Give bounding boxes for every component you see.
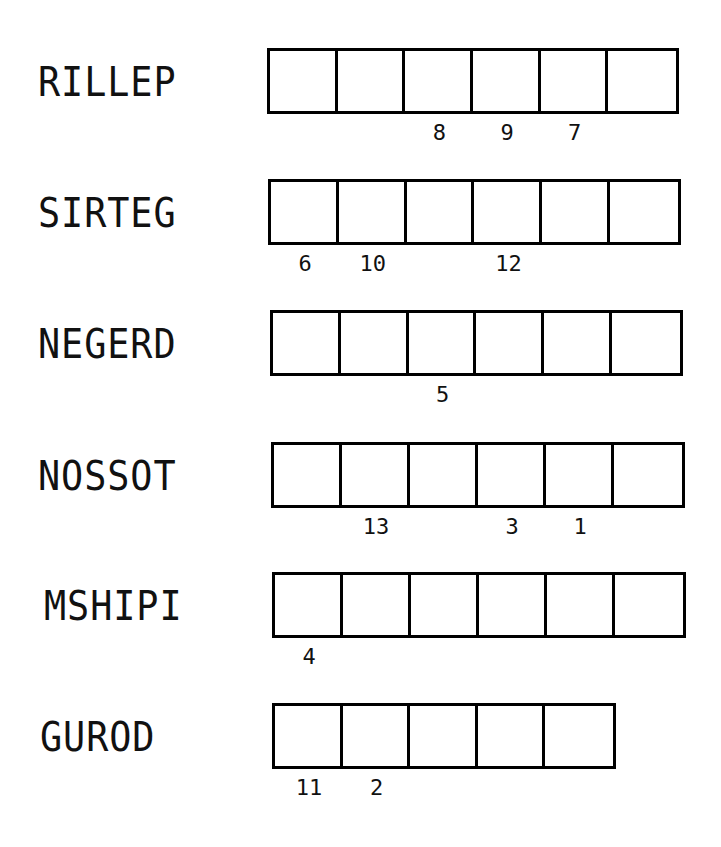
puzzle-row-4: NOSSOT 13 3 1 [0,442,721,562]
letter-box-3[interactable] [410,445,478,505]
letter-box-2[interactable]: 2 [343,706,411,766]
letter-box-2[interactable] [343,575,411,635]
puzzle-row-5: MSHIPI 4 [0,572,721,692]
letter-box-6[interactable] [612,313,680,373]
box-number: 10 [339,252,407,276]
letter-box-5[interactable] [545,706,613,766]
box-number: 9 [473,121,541,145]
scrambled-word: MSHIPI [44,586,182,626]
letter-box-1[interactable]: 11 [275,706,343,766]
box-number: 3 [478,515,546,539]
word-scramble-puzzle: RILLEP 8 9 7 SIRTEG 6 10 12 NEGERD 5 [0,0,721,847]
box-number: 2 [343,776,411,800]
letter-box-4[interactable]: 3 [478,445,546,505]
letter-box-3[interactable]: 5 [409,313,477,373]
box-number: 12 [474,252,542,276]
puzzle-row-2: SIRTEG 6 10 12 [0,179,721,299]
puzzle-row-1: RILLEP 8 9 7 [0,48,721,168]
puzzle-row-3: NEGERD 5 [0,310,721,430]
box-number: 8 [405,121,473,145]
box-number: 11 [275,776,343,800]
letter-box-3[interactable] [407,182,475,242]
answer-boxes: 8 9 7 [267,48,679,114]
letter-box-3[interactable]: 8 [405,51,473,111]
letter-box-2[interactable]: 13 [342,445,410,505]
letter-box-4[interactable] [476,313,544,373]
letter-box-2[interactable]: 10 [339,182,407,242]
letter-box-5[interactable]: 7 [541,51,609,111]
letter-box-6[interactable] [608,51,676,111]
answer-boxes: 5 [270,310,683,376]
letter-box-1[interactable] [273,313,341,373]
letter-box-5[interactable] [542,182,610,242]
letter-box-5[interactable] [547,575,615,635]
scrambled-word: GUROD [40,717,155,757]
letter-box-1[interactable] [274,445,342,505]
letter-box-3[interactable] [410,706,478,766]
letter-box-4[interactable] [478,706,546,766]
scrambled-word: RILLEP [38,62,176,102]
box-number: 13 [342,515,410,539]
answer-boxes: 11 2 [272,703,616,769]
box-number: 1 [546,515,614,539]
letter-box-4[interactable]: 12 [474,182,542,242]
answer-boxes: 13 3 1 [271,442,685,508]
letter-box-1[interactable]: 4 [275,575,343,635]
letter-box-5[interactable]: 1 [546,445,614,505]
answer-boxes: 6 10 12 [268,179,681,245]
answer-boxes: 4 [272,572,686,638]
puzzle-row-6: GUROD 11 2 [0,703,721,823]
box-number: 7 [541,121,609,145]
box-number: 6 [271,252,339,276]
letter-box-2[interactable] [338,51,406,111]
box-number: 5 [409,383,477,407]
letter-box-2[interactable] [341,313,409,373]
scrambled-word: NEGERD [38,324,176,364]
letter-box-4[interactable]: 9 [473,51,541,111]
letter-box-4[interactable] [479,575,547,635]
letter-box-6[interactable] [615,575,683,635]
scrambled-word: NOSSOT [38,456,176,496]
letter-box-5[interactable] [544,313,612,373]
scrambled-word: SIRTEG [38,193,176,233]
letter-box-6[interactable] [610,182,678,242]
box-number: 4 [275,645,343,669]
letter-box-1[interactable] [270,51,338,111]
letter-box-6[interactable] [614,445,682,505]
letter-box-3[interactable] [411,575,479,635]
letter-box-1[interactable]: 6 [271,182,339,242]
